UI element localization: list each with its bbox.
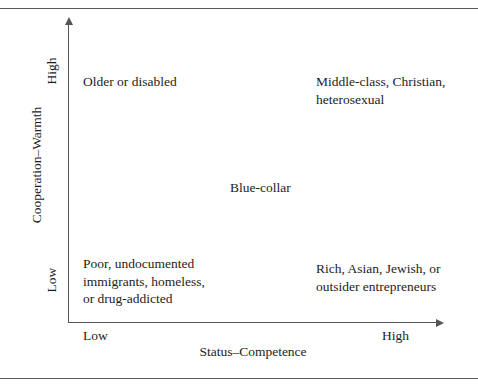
quadrant-label-high-warmth-low-status: Older or disabled [83, 73, 253, 91]
figure-bottom-rule [0, 378, 478, 379]
x-axis-title: Status–Competence [68, 344, 438, 360]
figure-top-rule [0, 8, 478, 9]
y-axis-arrow-icon [65, 17, 73, 25]
x-axis-tick-high: High [382, 328, 409, 344]
quadrant-label-high-warmth-high-status: Middle-class, Christian, heterosexual [316, 73, 466, 108]
y-axis-tick-low: Low [44, 250, 60, 310]
x-axis-tick-low: Low [83, 328, 108, 344]
quadrant-label-middle: Blue-collar [230, 179, 360, 197]
quadrant-label-low-warmth-high-status: Rich, Asian, Jewish, or outsider entrepr… [316, 260, 466, 295]
y-axis-tick-high: High [44, 41, 60, 101]
x-axis-arrow-icon [436, 319, 444, 327]
x-axis-line [68, 322, 438, 323]
quadrant-label-low-warmth-low-status: Poor, undocumented immigrants, homeless,… [83, 255, 253, 308]
y-axis-line [68, 24, 69, 323]
quadrant-figure: Cooperation–Warmth Status–Competence Hig… [0, 0, 478, 388]
y-axis-title: Cooperation–Warmth [29, 65, 45, 265]
